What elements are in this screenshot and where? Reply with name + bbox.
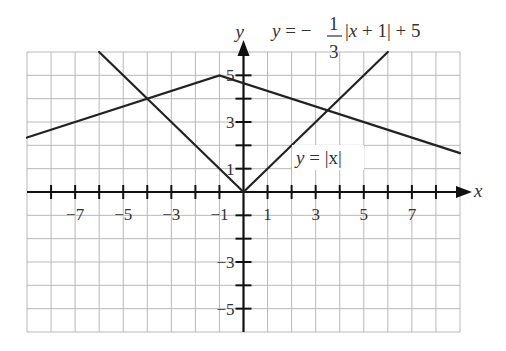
y-tick-label: 5 bbox=[226, 66, 235, 85]
x-tick-label: 7 bbox=[408, 205, 417, 224]
fraction-denominator: 3 bbox=[329, 41, 339, 62]
equation-abs-x: y = |x| bbox=[294, 147, 342, 168]
x-axis-arrow-icon bbox=[456, 186, 472, 198]
equation-label-abs-x: y = |x| bbox=[292, 145, 364, 170]
x-tick-label: −5 bbox=[114, 205, 132, 224]
y-tick-label: 3 bbox=[226, 113, 235, 132]
x-tick-label: 5 bbox=[360, 205, 369, 224]
x-axis-label: x bbox=[473, 180, 483, 201]
y-axis-arrow-icon bbox=[238, 40, 250, 56]
fraction-numerator: 1 bbox=[329, 13, 339, 34]
equation-label-shifted: y = − 1 3 |x + 1| + 5 bbox=[270, 13, 420, 62]
x-tick-label: −1 bbox=[210, 205, 228, 224]
chart: x y −7−5−3−11357531−3−5 y = |x| y = − 1 … bbox=[0, 0, 506, 351]
x-tick-label: −3 bbox=[162, 205, 180, 224]
x-tick-label: 1 bbox=[263, 205, 272, 224]
equation-shifted-left: y = − bbox=[270, 20, 311, 41]
x-tick-label: 3 bbox=[311, 205, 320, 224]
equation-shifted-right: |x + 1| + 5 bbox=[345, 20, 420, 41]
y-tick-label: −5 bbox=[216, 300, 234, 319]
x-tick-label: −7 bbox=[66, 205, 85, 224]
y-tick-label: −3 bbox=[216, 253, 234, 272]
y-axis-label: y bbox=[234, 21, 245, 42]
